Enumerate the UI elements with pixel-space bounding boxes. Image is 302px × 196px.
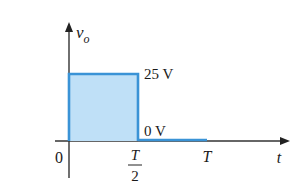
x-tick-label-0: 0 xyxy=(55,149,63,166)
low-level-label: 0 V xyxy=(144,123,166,139)
x-axis-label: t xyxy=(277,149,282,166)
x-tick-label-T: T xyxy=(203,148,213,165)
x-tick-label-half-T-numerator: T xyxy=(131,147,141,163)
pulse-waveform-diagram: vo 25 V 0 V 0 T 2 T t xyxy=(0,0,302,196)
x-tick-label-half-T-denominator: 2 xyxy=(131,168,139,184)
x-axis-arrow-icon xyxy=(280,137,290,145)
pulse-high-region xyxy=(69,74,138,141)
y-axis-arrow-icon xyxy=(65,22,73,32)
high-level-label: 25 V xyxy=(144,66,173,82)
y-axis-label: vo xyxy=(76,23,90,46)
